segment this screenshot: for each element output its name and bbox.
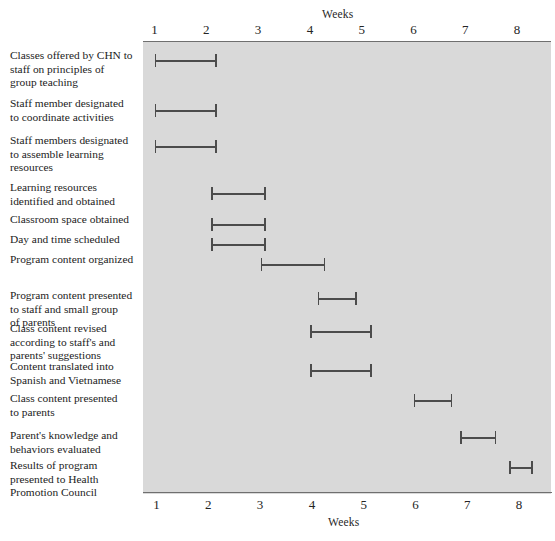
task-label: Parent's knowledge andbehaviors evaluate… — [10, 429, 138, 456]
gantt-bar — [318, 292, 357, 305]
task-label-line: Program content presented — [10, 289, 138, 303]
task-label-line: according to staff's and — [10, 336, 138, 350]
bar-line — [261, 264, 326, 266]
task-label: Classes offered by CHN tostaff on princi… — [10, 49, 138, 90]
task-label-line: Spanish and Vietnamese — [10, 374, 138, 388]
task-label: Content translated intoSpanish and Vietn… — [10, 360, 138, 387]
task-label: Results of programpresented to HealthPro… — [10, 459, 138, 500]
x-tick-label-6: 6 — [406, 497, 426, 513]
bar-end-cap — [355, 292, 357, 305]
x-tick-label-8: 8 — [507, 22, 527, 38]
gantt-bar — [414, 394, 453, 407]
task-label-line: Class content revised — [10, 322, 138, 336]
bar-line — [211, 193, 265, 195]
bar-end-cap — [324, 258, 326, 271]
task-label-line: resources — [10, 161, 138, 175]
bar-end-cap — [451, 394, 453, 407]
bar-line — [318, 298, 357, 300]
x-tick-label-7: 7 — [455, 22, 475, 38]
gantt-bar — [155, 140, 217, 153]
plot-area — [143, 41, 551, 494]
task-label: Program content organized — [10, 253, 138, 267]
task-label-line: Parent's knowledge and — [10, 429, 138, 443]
task-label: Class content revisedaccording to staff'… — [10, 322, 138, 363]
x-tick-label-3: 3 — [248, 22, 268, 38]
gantt-bar — [211, 218, 265, 231]
task-label-line: to staff and small group — [10, 303, 138, 317]
bar-end-cap — [215, 140, 217, 153]
task-label-line: Program content organized — [10, 253, 138, 267]
bar-end-cap — [531, 461, 533, 474]
task-label: Class content presentedto parents — [10, 392, 138, 419]
task-label-line: staff on principles of — [10, 63, 138, 77]
task-label-line: Classroom space obtained — [10, 213, 138, 227]
gantt-bar — [509, 461, 532, 474]
gantt-bar — [310, 364, 372, 377]
task-label-line: Staff member designated — [10, 97, 138, 111]
task-label-line: Content translated into — [10, 360, 138, 374]
task-label-column: Classes offered by CHN tostaff on princi… — [0, 41, 138, 493]
task-label: Classroom space obtained — [10, 213, 138, 227]
task-label-line: to parents — [10, 406, 138, 420]
x-tick-label-4: 4 — [300, 22, 320, 38]
bar-line — [211, 224, 265, 226]
x-tick-label-4: 4 — [302, 497, 322, 513]
x-tick-label-2: 2 — [198, 497, 218, 513]
task-label-line: Staff members designated — [10, 134, 138, 148]
x-tick-label-1: 1 — [145, 22, 165, 38]
bar-line — [414, 400, 453, 402]
task-label-line: behaviors evaluated — [10, 443, 138, 457]
task-label-line: identified and obtained — [10, 195, 138, 209]
task-label-line: to coordinate activities — [10, 111, 138, 125]
task-label: Learning resourcesidentified and obtaine… — [10, 181, 138, 208]
task-label-line: to assemble learning — [10, 148, 138, 162]
bar-line — [155, 60, 217, 62]
gantt-chart: Weeks 12345678 Classes offered by CHN to… — [0, 0, 555, 541]
bar-end-cap — [264, 187, 266, 200]
gantt-bar — [211, 187, 265, 200]
gantt-bar — [155, 104, 217, 117]
gantt-bar — [310, 325, 372, 338]
task-label-line: Day and time scheduled — [10, 233, 138, 247]
task-label: Day and time scheduled — [10, 233, 138, 247]
bar-line — [155, 110, 217, 112]
gantt-bar — [211, 238, 265, 251]
gantt-bar — [460, 431, 496, 444]
bar-line — [310, 370, 372, 372]
x-tick-label-6: 6 — [404, 22, 424, 38]
axis-title-top: Weeks — [322, 8, 353, 20]
bar-line — [211, 244, 265, 246]
bar-line — [310, 331, 372, 333]
bar-line — [509, 467, 532, 469]
gantt-bar — [261, 258, 326, 271]
bar-end-cap — [215, 104, 217, 117]
bar-end-cap — [215, 54, 217, 67]
x-tick-label-7: 7 — [457, 497, 477, 513]
bar-end-cap — [264, 238, 266, 251]
axis-title-bottom: Weeks — [328, 516, 359, 528]
x-tick-label-5: 5 — [352, 22, 372, 38]
x-tick-label-8: 8 — [509, 497, 529, 513]
task-label: Staff members designatedto assemble lear… — [10, 134, 138, 175]
task-label-line: Class content presented — [10, 392, 138, 406]
task-label: Staff member designatedto coordinate act… — [10, 97, 138, 124]
bar-line — [460, 437, 496, 439]
task-label-line: Results of program — [10, 459, 138, 473]
task-label-line: group teaching — [10, 76, 138, 90]
task-label-line: presented to Health — [10, 473, 138, 487]
task-label-line: Learning resources — [10, 181, 138, 195]
bar-end-cap — [495, 431, 497, 444]
bar-line — [155, 146, 217, 148]
bar-end-cap — [264, 218, 266, 231]
bar-end-cap — [370, 325, 372, 338]
bar-end-cap — [370, 364, 372, 377]
x-tick-label-5: 5 — [354, 497, 374, 513]
x-tick-label-1: 1 — [147, 497, 167, 513]
x-axis-line-bottom — [143, 492, 552, 493]
task-label-line: Promotion Council — [10, 486, 138, 500]
gantt-bar — [155, 54, 217, 67]
x-tick-label-2: 2 — [196, 22, 216, 38]
x-tick-label-3: 3 — [250, 497, 270, 513]
task-label-line: Classes offered by CHN to — [10, 49, 138, 63]
